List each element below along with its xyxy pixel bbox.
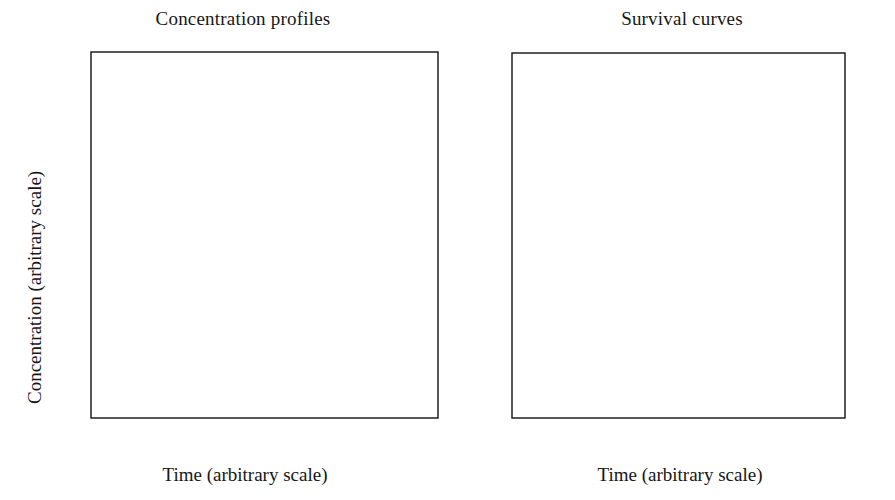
panel-survival-curves: Survival curves Time (arbitrary scale) L… bbox=[445, 0, 895, 500]
panel-concentration-profiles: Concentration profiles Time (arbitrary s… bbox=[0, 0, 450, 500]
plot-area-left bbox=[0, 0, 450, 500]
figure-root: Concentration profiles Time (arbitrary s… bbox=[0, 0, 895, 500]
plot-frame-left bbox=[91, 52, 438, 418]
y-axis-title-left: Concentration (arbitrary scale) bbox=[24, 171, 46, 404]
plot-area-right bbox=[445, 0, 895, 500]
plot-frame-right bbox=[512, 53, 845, 418]
x-axis-title-right: Time (arbitrary scale) bbox=[445, 464, 895, 486]
x-axis-title-left: Time (arbitrary scale) bbox=[0, 464, 450, 486]
